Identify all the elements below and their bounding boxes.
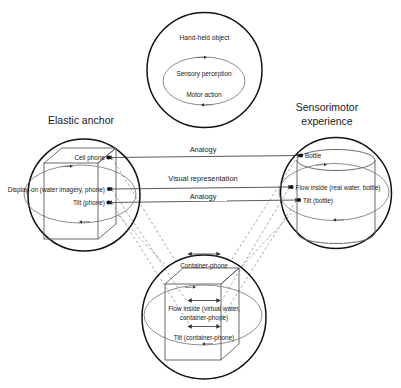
left-circle-title: Elastic anchor <box>48 114 114 126</box>
right-node-dot-bottle <box>299 153 303 157</box>
connector-labels-group: Analogy Visual representation Analogy <box>155 143 251 201</box>
right-flow-ellipse <box>279 164 389 221</box>
dashed-right-extra-a <box>238 213 292 270</box>
right-node-label-flow: Flow inside (real water, bottle) <box>296 184 381 192</box>
connector-analogy-top-line <box>110 156 300 158</box>
right-node-label-tilt: Tilt (bottle) <box>303 197 333 205</box>
right-circle-title-line1: Sensorimotor <box>296 101 359 113</box>
bottom-node-label-flow-line2: container-phone) <box>180 314 228 322</box>
dashed-left-display-to-flow <box>112 190 186 300</box>
left-node-dot-display <box>107 187 111 191</box>
left-circle-group: Cell phone Display-on (water imagery, ph… <box>8 139 140 251</box>
sensory-perception-label: Sensory perception <box>176 70 232 78</box>
right-node-dot-tilt <box>297 198 301 202</box>
bottom-node-label-tilt: Tilt (container-phone) <box>174 334 235 342</box>
dashed-right-bottle-to-container <box>230 156 298 262</box>
connector-label-visual-representation: Visual representation <box>168 174 237 183</box>
bottom-circle-group: Container-phone Flow inside (virtual wat… <box>142 254 266 379</box>
bottom-node-label-flow-line1: Flow inside (virtual water, <box>168 305 240 313</box>
left-cube-shape <box>44 148 116 239</box>
bottom-node-label-container: Container-phone <box>180 262 228 270</box>
right-circle-group: Bottle Flow inside (real water, bottle) … <box>279 138 392 249</box>
right-circle-title-line2: experience <box>301 115 353 127</box>
top-circle-label: Hand-held object <box>180 34 230 42</box>
right-node-label-bottle: Bottle <box>305 152 322 159</box>
diagram-canvas: Hand-held object Sensory perception Moto… <box>0 0 401 388</box>
right-node-dot-flow <box>289 185 293 189</box>
left-node-dot-cellphone <box>106 155 110 159</box>
motor-action-label: Motor action <box>186 91 222 98</box>
connector-label-analogy-bottom: Analogy <box>190 192 217 201</box>
left-node-dot-tilt <box>106 200 110 204</box>
left-node-label-display: Display-on (water imagery, phone) <box>8 186 105 194</box>
dashed-left-extra-a <box>118 215 170 270</box>
connector-label-analogy-top: Analogy <box>190 145 217 154</box>
top-circle-group: Hand-held object Sensory perception Moto… <box>147 13 262 128</box>
diagram-svg: Hand-held object Sensory perception Moto… <box>0 0 401 388</box>
left-node-label-tilt: Tilt (phone) <box>73 199 105 207</box>
left-node-label-cellphone: Cell phone <box>74 154 105 162</box>
left-flow-ellipse <box>24 165 136 223</box>
connector-visual-representation-line <box>111 187 292 189</box>
